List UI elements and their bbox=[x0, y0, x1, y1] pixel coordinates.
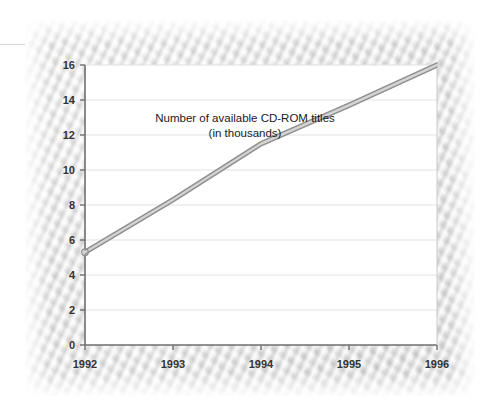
y-tick-label: 0 bbox=[69, 339, 75, 351]
cd-rom-titles-line-chart: 0246810121416 19921993199419951996 Numbe… bbox=[0, 0, 501, 419]
y-tick-label: 8 bbox=[69, 199, 75, 211]
y-tick-label: 12 bbox=[63, 129, 75, 141]
y-tick-label: 6 bbox=[69, 234, 75, 246]
annotation-line-2: (in thousands) bbox=[209, 127, 282, 139]
y-tick-label: 10 bbox=[63, 164, 75, 176]
annotation-line-1: Number of available CD-ROM titles bbox=[155, 112, 335, 124]
x-tick-label: 1995 bbox=[337, 358, 361, 370]
y-axis-tick-labels: 0246810121416 bbox=[63, 59, 76, 351]
y-tick-label: 16 bbox=[63, 59, 75, 71]
x-tick-label: 1994 bbox=[249, 358, 274, 370]
x-tick-label: 1996 bbox=[425, 358, 449, 370]
x-axis-tick-labels: 19921993199419951996 bbox=[73, 358, 449, 370]
y-tick-label: 4 bbox=[69, 269, 76, 281]
x-tick-label: 1993 bbox=[161, 358, 185, 370]
x-tick-label: 1992 bbox=[73, 358, 97, 370]
y-tick-label: 14 bbox=[63, 94, 76, 106]
y-tick-label: 2 bbox=[69, 304, 75, 316]
